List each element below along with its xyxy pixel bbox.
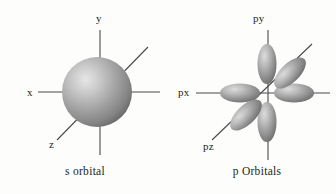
- p-axis-label-pz: pz: [203, 141, 214, 152]
- s-orbital-caption: s orbital: [20, 166, 150, 178]
- orbital-diagram-canvas: [0, 0, 336, 194]
- orbital-diagram-figure: y x z py px pz s orbital p Orbitals: [0, 0, 336, 194]
- s-orbital-group: [38, 30, 160, 155]
- p-orbitals-group: [196, 30, 330, 160]
- p-lobe-py-positive: [258, 44, 277, 84]
- p-axis-label-px: px: [178, 87, 189, 98]
- s-axis-label-y: y: [96, 13, 102, 24]
- s-orbital-sphere: [62, 57, 132, 127]
- s-axis-label-x: x: [27, 87, 33, 98]
- p-orbitals-caption: p Orbitals: [192, 166, 322, 178]
- p-lobe-px-negative: [220, 84, 260, 103]
- s-axis-label-z: z: [49, 139, 54, 150]
- p-axis-label-py: py: [253, 13, 264, 24]
